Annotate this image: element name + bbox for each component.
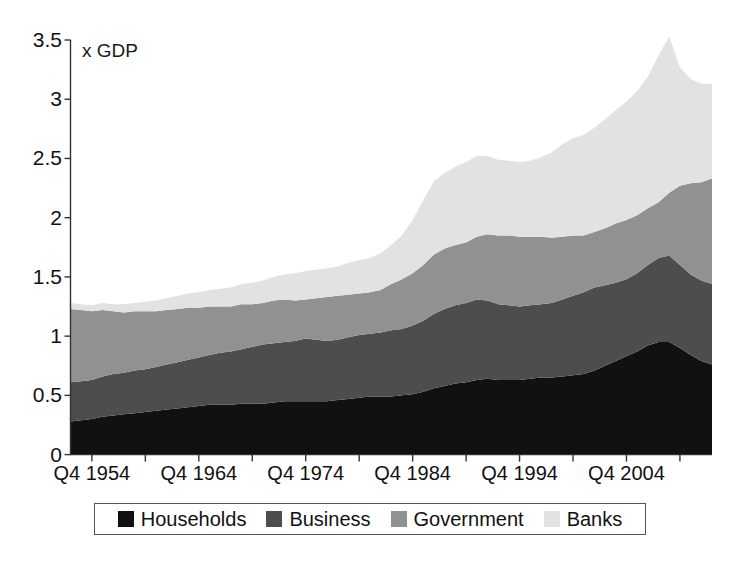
- y-tick-label: 0.5: [4, 383, 62, 407]
- x-tick-label: Q4 1994: [481, 462, 558, 485]
- x-tick-label: Q4 2004: [588, 462, 665, 485]
- stacked-area-chart-figure: x GDP 00.511.522.533.5 Q4 1954Q4 1964Q4 …: [0, 0, 734, 572]
- y-tick-label: 3.5: [4, 28, 62, 52]
- y-tick-label: 1.5: [4, 265, 62, 289]
- legend-item: Households: [118, 508, 247, 531]
- area-bands: [71, 36, 713, 454]
- x-tick-label: Q4 1984: [374, 462, 451, 485]
- legend-swatch-icon: [544, 511, 560, 527]
- x-tick-label: Q4 1964: [160, 462, 237, 485]
- legend-swatch-icon: [391, 511, 407, 527]
- chart-legend: HouseholdsBusinessGovernmentBanks: [94, 503, 646, 535]
- plot-area: [0, 0, 734, 572]
- y-tick-label: 2: [4, 206, 62, 230]
- y-tick-label: 2.5: [4, 146, 62, 170]
- y-tick-label: 3: [4, 87, 62, 111]
- legend-swatch-icon: [266, 511, 282, 527]
- y-tick-label: 1: [4, 324, 62, 348]
- legend-label: Business: [289, 508, 370, 531]
- legend-item: Business: [266, 508, 370, 531]
- x-tick-label: Q4 1954: [54, 462, 131, 485]
- legend-swatch-icon: [118, 511, 134, 527]
- x-tick-label: Q4 1974: [267, 462, 344, 485]
- legend-label: Banks: [567, 508, 623, 531]
- legend-item: Banks: [544, 508, 623, 531]
- legend-item: Government: [391, 508, 524, 531]
- legend-label: Households: [141, 508, 247, 531]
- legend-label: Government: [414, 508, 524, 531]
